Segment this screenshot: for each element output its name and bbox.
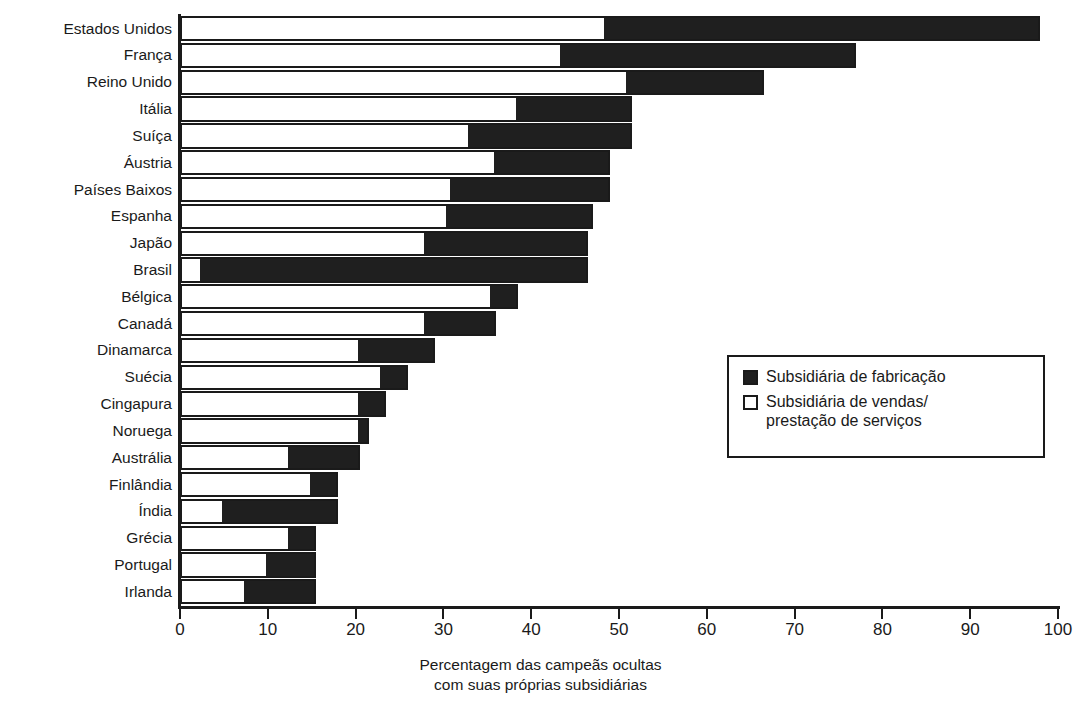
- bar-segment-manufacturing: [222, 499, 338, 524]
- bar-segment-manufacturing: [446, 204, 593, 229]
- bar-segment-manufacturing: [560, 43, 856, 68]
- category-label: Espanha: [0, 208, 172, 224]
- category-axis-labels: Estados UnidosFrançaReino UnidoItáliaSuí…: [0, 16, 172, 606]
- bar-segment-sales: [180, 311, 426, 336]
- bar-segment-sales: [180, 231, 426, 256]
- x-axis-tick-label: 80: [873, 621, 892, 638]
- legend-item-sales: Subsidiária de vendas/ prestação de serv…: [743, 392, 1043, 430]
- x-axis-tick-label: 90: [961, 621, 980, 638]
- bar-segment-manufacturing: [266, 552, 316, 577]
- x-axis-tick-label: 70: [785, 621, 804, 638]
- x-axis-tick-label: 30: [434, 621, 453, 638]
- category-label: Dinamarca: [0, 342, 172, 358]
- bar-row: [180, 123, 1058, 148]
- category-label: Áustria: [0, 155, 172, 171]
- bar-segment-sales: [180, 499, 224, 524]
- category-label: Índia: [0, 503, 172, 519]
- bar-segment-sales: [180, 391, 360, 416]
- bar-segment-manufacturing: [490, 284, 518, 309]
- bar-row: [180, 257, 1058, 282]
- x-axis-tick: [706, 609, 708, 619]
- bar-segment-manufacturing: [494, 150, 610, 175]
- x-axis-title-line-2: com suas próprias subsidiárias: [0, 675, 1081, 695]
- category-label: Cingapura: [0, 396, 172, 412]
- bar-row: [180, 231, 1058, 256]
- bar-row: [180, 311, 1058, 336]
- bar-row: [180, 70, 1058, 95]
- x-axis-title-line-1: Percentagem das campeãs ocultas: [0, 655, 1081, 675]
- bar-segment-sales: [180, 70, 628, 95]
- bar-row: [180, 150, 1058, 175]
- bar-segment-sales: [180, 472, 312, 497]
- x-axis-tick: [530, 609, 532, 619]
- x-axis-tick: [442, 609, 444, 619]
- legend: Subsidiária de fabricação Subsidiária de…: [727, 355, 1045, 458]
- bar-row: [180, 526, 1058, 551]
- x-axis-tick-label: 10: [258, 621, 277, 638]
- bar-segment-manufacturing: [358, 418, 369, 443]
- bar-segment-manufacturing: [626, 70, 764, 95]
- bar-segment-sales: [180, 418, 360, 443]
- bar-segment-sales: [180, 579, 246, 604]
- x-axis-tick: [794, 609, 796, 619]
- bar-segment-sales: [180, 552, 268, 577]
- bar-segment-sales: [180, 526, 290, 551]
- x-axis-tick-label: 60: [697, 621, 716, 638]
- category-label: Noruega: [0, 423, 172, 439]
- legend-swatch-filled-icon: [743, 370, 758, 385]
- legend-label-sales-line-1: Subsidiária de vendas/: [766, 392, 928, 411]
- x-axis-tick: [969, 609, 971, 619]
- category-label: Suécia: [0, 369, 172, 385]
- bar-segment-manufacturing: [450, 177, 610, 202]
- x-axis-tick: [881, 609, 883, 619]
- bar-segment-manufacturing: [288, 526, 316, 551]
- x-axis-tick: [355, 609, 357, 619]
- category-label: Países Baixos: [0, 182, 172, 198]
- bar-row: [180, 552, 1058, 577]
- legend-label-sales-line-2: prestação de serviços: [766, 411, 928, 430]
- category-label: Suíça: [0, 128, 172, 144]
- bar-segment-manufacturing: [424, 231, 588, 256]
- x-axis-tick: [267, 609, 269, 619]
- legend-label-manufacturing: Subsidiária de fabricação: [766, 367, 946, 386]
- legend-label-sales: Subsidiária de vendas/ prestação de serv…: [766, 392, 928, 430]
- x-axis-tick-label: 0: [175, 621, 184, 638]
- bar-segment-manufacturing: [358, 391, 386, 416]
- legend-swatch-hollow-icon: [743, 395, 758, 410]
- category-label: Canadá: [0, 316, 172, 332]
- bar-segment-manufacturing: [310, 472, 338, 497]
- category-label: Grécia: [0, 530, 172, 546]
- bar-segment-sales: [180, 338, 360, 363]
- bar-row: [180, 499, 1058, 524]
- bar-segment-manufacturing: [358, 338, 435, 363]
- bar-segment-manufacturing: [200, 257, 588, 282]
- bar-segment-sales: [180, 16, 606, 41]
- bar-segment-manufacturing: [424, 311, 496, 336]
- category-label: Itália: [0, 101, 172, 117]
- bar-segment-sales: [180, 257, 202, 282]
- category-label: França: [0, 47, 172, 63]
- horizontal-stacked-bar-chart: Estados UnidosFrançaReino UnidoItáliaSuí…: [0, 0, 1081, 727]
- bar-segment-sales: [180, 150, 496, 175]
- bar-segment-manufacturing: [380, 365, 408, 390]
- bar-segment-manufacturing: [288, 445, 360, 470]
- bar-row: [180, 472, 1058, 497]
- category-label: Portugal: [0, 557, 172, 573]
- bar-segment-manufacturing: [516, 96, 632, 121]
- x-axis-title: Percentagem das campeãs ocultas com suas…: [0, 655, 1081, 695]
- category-label: Austrália: [0, 450, 172, 466]
- bar-segment-sales: [180, 123, 470, 148]
- bar-segment-manufacturing: [468, 123, 632, 148]
- category-label: Estados Unidos: [0, 21, 172, 37]
- x-axis-tick: [179, 609, 181, 619]
- bar-row: [180, 284, 1058, 309]
- x-axis-tick-label: 40: [522, 621, 541, 638]
- x-axis-tick-label: 50: [610, 621, 629, 638]
- x-axis-tick: [1057, 609, 1059, 619]
- category-label: Irlanda: [0, 584, 172, 600]
- category-label: Bélgica: [0, 289, 172, 305]
- bar-row: [180, 204, 1058, 229]
- category-label: Japão: [0, 235, 172, 251]
- x-axis-tick-label: 100: [1044, 621, 1072, 638]
- bar-row: [180, 579, 1058, 604]
